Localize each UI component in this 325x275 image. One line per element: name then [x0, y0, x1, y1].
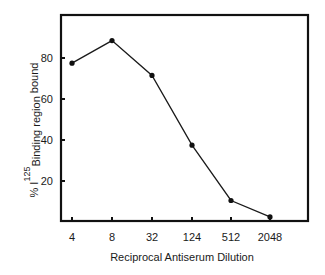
- y-tick-label: 40: [41, 134, 53, 146]
- data-point: [69, 61, 74, 66]
- x-axis-title: Reciprocal Antiserum Dilution: [110, 251, 254, 263]
- plot-frame: [61, 15, 308, 221]
- x-tick-label: 2048: [258, 231, 282, 243]
- svg-text:% I125Binding region bound: % I125Binding region bound: [22, 63, 42, 198]
- y-tick-label: 20: [41, 175, 53, 187]
- x-tick-label: 124: [183, 231, 201, 243]
- data-points: [69, 38, 272, 219]
- data-line: [72, 41, 270, 217]
- data-point: [189, 143, 194, 148]
- data-point: [149, 73, 154, 78]
- chart: 20406080 48321245122048 Reciprocal Antis…: [0, 0, 325, 275]
- y-axis-title-prefix: % I: [28, 182, 40, 198]
- x-tick-label: 8: [109, 231, 115, 243]
- data-point: [267, 214, 272, 219]
- data-point: [228, 198, 233, 203]
- x-tick-label: 512: [222, 231, 240, 243]
- data-point: [109, 38, 114, 43]
- y-axis-title-subscript: Binding region: [30, 96, 42, 166]
- y-axis-title-superscript: 125: [22, 167, 32, 182]
- y-tick-label: 60: [41, 93, 53, 105]
- y-axis-title: % I125Binding region bound: [22, 63, 42, 198]
- x-tick-label: 4: [69, 231, 75, 243]
- y-axis-title-suffix: bound: [28, 63, 40, 97]
- y-tick-label: 80: [41, 52, 53, 64]
- x-tick-label: 32: [146, 231, 158, 243]
